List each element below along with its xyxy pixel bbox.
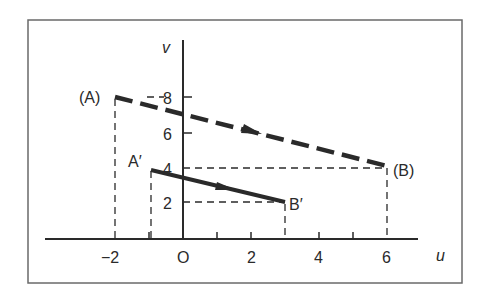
v-tick-label-6: 6 bbox=[163, 126, 172, 143]
guide-lines bbox=[115, 97, 387, 239]
u-tick-label-2: 2 bbox=[247, 249, 256, 266]
v-axis-ticks bbox=[183, 97, 192, 133]
uv-plane-diagram: (A) (B) A′ B′ v u −2 O 2 4 6 2 4 6 8 bbox=[0, 0, 483, 300]
u-axis-ticks bbox=[149, 232, 353, 239]
v-tick-label-8: 8 bbox=[163, 90, 172, 107]
u-tick-label-6: 6 bbox=[382, 249, 391, 266]
label-point-a: (A) bbox=[79, 89, 100, 106]
label-point-b: (B) bbox=[393, 162, 414, 179]
arrow-a-prime-b-prime-icon bbox=[215, 182, 236, 190]
v-tick-label-4: 4 bbox=[163, 161, 172, 178]
u-tick-label-4: 4 bbox=[314, 249, 323, 266]
v-axis-label: v bbox=[162, 39, 171, 56]
u-axis-label: u bbox=[436, 247, 445, 264]
u-tick-label-minus-2: −2 bbox=[101, 249, 119, 266]
v-tick-label-2: 2 bbox=[163, 195, 172, 212]
origin-label: O bbox=[177, 249, 189, 266]
diagram-frame bbox=[28, 20, 462, 283]
arrow-ab-icon bbox=[241, 124, 262, 134]
label-point-b-prime: B′ bbox=[289, 196, 303, 213]
label-point-a-prime: A′ bbox=[128, 153, 142, 170]
